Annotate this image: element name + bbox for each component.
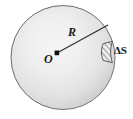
radius-label: R [68,26,76,38]
center-dot [55,51,60,56]
center-label: O [44,53,53,65]
sphere-rim-shading [11,6,115,110]
sphere-surface-element-figure: R O ΔS [0,0,133,119]
surface-element-label: ΔS [114,45,127,56]
surface-element-patch [101,41,112,62]
figure-canvas [0,0,133,119]
